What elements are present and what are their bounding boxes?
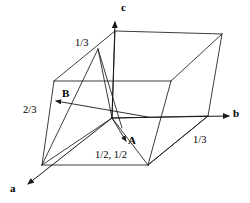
interior-line-right-diagonal [98, 49, 122, 128]
site-label-a: A [128, 135, 136, 146]
interior-line-left-diagonal [98, 49, 112, 118]
edge-vertical-back-right [208, 34, 222, 116]
unit-cell-diagram: c b a A B 1/3 2/3 1/3 1/2, 1/2 [0, 0, 250, 203]
edge-top-back [115, 31, 222, 34]
fraction-label-top: 1/3 [75, 38, 88, 49]
fraction-label-right: 1/3 [193, 135, 206, 146]
axis-b-line [112, 116, 229, 118]
axis-label-c: c [121, 2, 126, 13]
edge-top-right [171, 34, 222, 81]
fraction-label-left: 2/3 [23, 105, 36, 116]
edge-vertical-front-right [148, 81, 171, 165]
axis-label-a: a [10, 183, 16, 194]
pointer-site-b [56, 101, 148, 117]
unit-cell-svg [0, 0, 250, 203]
fraction-label-center: 1/2, 1/2 [95, 150, 127, 161]
pointer-site-a [112, 118, 126, 141]
site-label-b: B [62, 88, 69, 99]
axis-label-b: b [233, 108, 239, 119]
axis-lines [28, 22, 229, 184]
